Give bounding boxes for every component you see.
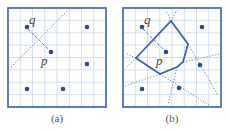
site-point-site-right-mid [85,62,90,67]
bisector-line [183,54,220,62]
label-q: q [144,12,151,27]
bisector-line [127,58,136,67]
caption-b: (b) [152,112,192,124]
bisector-line [125,74,160,86]
site-point-site-top-right [200,25,205,30]
site-point-site-bottom-left [140,87,145,92]
bisector-line [166,10,171,21]
label-p: p [155,53,163,68]
site-point-site-bottom-mid [61,87,66,92]
site-point-site-bottom-left [25,87,30,92]
voronoi-diagram: qpqp [0,0,230,133]
label-q: q [29,12,36,27]
segment-pq [28,29,50,51]
label-p: p [40,53,48,68]
bisector-line [168,67,177,105]
site-point-p [49,50,54,55]
site-point-site-bottom-mid [177,86,182,91]
site-point-site-top-right [85,25,90,30]
caption-a: (a) [37,112,77,124]
site-point-p [164,50,169,55]
bisector-line [11,10,68,67]
site-point-site-right-mid [198,63,203,68]
